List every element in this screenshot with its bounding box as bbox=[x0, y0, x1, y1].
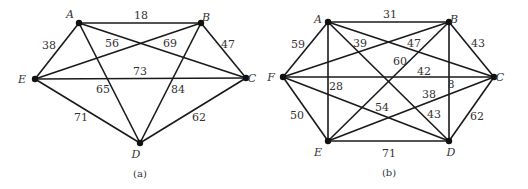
edge-weight-label: 38 bbox=[422, 88, 436, 101]
edge-weight-label: 84 bbox=[171, 83, 185, 96]
vertex-f bbox=[280, 74, 286, 80]
edge-weight-label: 62 bbox=[192, 111, 206, 124]
edge-weight-label: 28 bbox=[329, 80, 343, 93]
vertex-label: E bbox=[313, 146, 322, 159]
graph-figure: 18385669477365847162ABCDE(a) 31593947436… bbox=[0, 0, 528, 189]
edge-weight-label: 50 bbox=[290, 109, 304, 122]
edge-weight-label: 47 bbox=[407, 37, 421, 50]
edge-f-d bbox=[283, 77, 449, 141]
vertex-a bbox=[76, 20, 82, 26]
vertex-label: B bbox=[201, 11, 210, 24]
graph-a: 18385669477365847162ABCDE(a) bbox=[17, 8, 257, 179]
edge-c-d bbox=[449, 77, 494, 141]
edge-weight-label: 65 bbox=[96, 83, 110, 96]
vertex-label: A bbox=[65, 8, 74, 21]
edge-weight-label: 38 bbox=[42, 39, 56, 52]
edge-weight-label: 42 bbox=[417, 65, 431, 78]
edge-weight-label: 43 bbox=[471, 37, 485, 50]
edge-weight-label: 56 bbox=[105, 37, 119, 50]
edge-e-c bbox=[35, 78, 246, 79]
edge-weight-label: 62 bbox=[470, 110, 484, 123]
edge-e-c bbox=[328, 77, 494, 141]
edge-weight-label: 39 bbox=[353, 37, 367, 50]
vertex-label: C bbox=[496, 71, 505, 84]
vertex-label: C bbox=[248, 72, 257, 85]
edge-weight-label: 54 bbox=[375, 101, 389, 114]
figure-caption: (a) bbox=[133, 168, 147, 179]
vertex-e bbox=[325, 138, 331, 144]
figure-caption: (b) bbox=[382, 167, 396, 178]
edge-weight-label: 73 bbox=[133, 65, 147, 78]
edge-weight-label: 60 bbox=[393, 55, 407, 68]
graph-b: 31593947436042288385443506271ABCDEF(b) bbox=[266, 8, 505, 178]
vertex-a bbox=[325, 19, 331, 25]
edge-weight-label: 71 bbox=[382, 147, 396, 160]
edge-weight-label: 59 bbox=[291, 38, 305, 51]
edge-weight-label: 31 bbox=[383, 8, 397, 21]
vertex-label: A bbox=[313, 13, 322, 26]
vertex-e bbox=[32, 76, 38, 82]
vertex-label: F bbox=[266, 71, 275, 84]
edge-weight-label: 18 bbox=[134, 9, 148, 22]
edge-weight-label: 8 bbox=[448, 78, 455, 91]
edge-weight-label: 47 bbox=[221, 38, 235, 51]
vertex-label: E bbox=[17, 73, 26, 86]
edge-weight-label: 69 bbox=[163, 37, 177, 50]
vertex-d bbox=[137, 140, 143, 146]
vertex-label: B bbox=[449, 13, 458, 26]
vertex-label: D bbox=[446, 146, 456, 159]
edge-weight-label: 43 bbox=[427, 108, 441, 121]
vertex-d bbox=[446, 138, 452, 144]
vertex-label: D bbox=[131, 148, 141, 161]
edge-weight-label: 71 bbox=[74, 111, 88, 124]
